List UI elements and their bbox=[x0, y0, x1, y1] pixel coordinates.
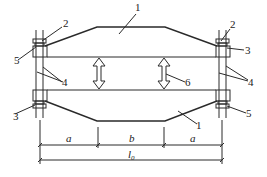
label-part2-left: 2 bbox=[63, 17, 69, 29]
label-part4-right: 4 bbox=[248, 76, 254, 88]
dim-b: b bbox=[129, 132, 135, 144]
dim-a-right: a bbox=[190, 132, 196, 144]
label-part6: 6 bbox=[185, 76, 191, 88]
dim-a-left: a bbox=[66, 132, 72, 144]
label-part5-right: 5 bbox=[246, 107, 252, 119]
label-part1-top: 1 bbox=[135, 1, 141, 13]
support-blocks bbox=[33, 46, 230, 101]
label-part3-right: 3 bbox=[245, 44, 251, 56]
bottom-loading-beam bbox=[45, 101, 217, 121]
top-loading-beam bbox=[45, 27, 217, 46]
label-part3-left: 3 bbox=[13, 110, 19, 122]
leader-lines bbox=[15, 14, 248, 124]
label-part2-right: 2 bbox=[230, 18, 236, 30]
specimen bbox=[47, 57, 216, 90]
label-part5-left: 5 bbox=[14, 54, 20, 66]
label-part1-bottom: 1 bbox=[196, 119, 202, 131]
dim-l0: l0 bbox=[128, 148, 135, 162]
diagram-canvas: 1 2 5 4 3 2 3 4 5 6 1 a b a l0 bbox=[0, 0, 267, 177]
label-part4-left: 4 bbox=[62, 76, 68, 88]
double-arrow-left bbox=[93, 58, 105, 89]
double-arrow-right bbox=[158, 58, 170, 89]
